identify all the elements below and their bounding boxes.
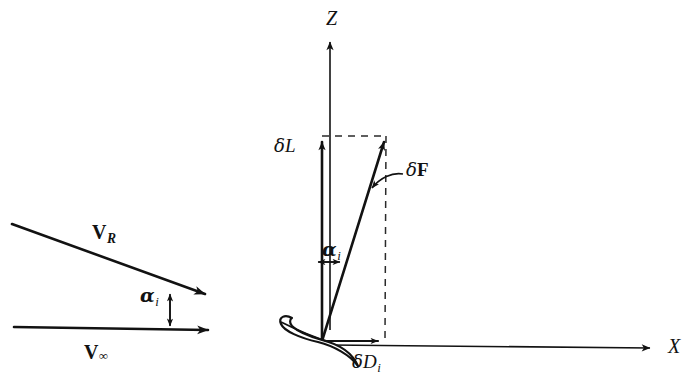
x-axis-label: X — [668, 336, 680, 356]
force-label-leader — [372, 174, 403, 188]
lift-increment-label: δL — [274, 136, 296, 155]
x-axis — [330, 345, 650, 348]
left-induced-angle-label: αi — [140, 286, 159, 309]
z-axis-label: Z — [326, 8, 337, 28]
figure-canvas — [0, 0, 698, 384]
freestream-velocity-vector — [14, 327, 208, 330]
freestream-velocity-label: V∞ — [84, 342, 108, 363]
induced-drag-label: δDi — [352, 352, 381, 375]
right-induced-angle-label: αi — [322, 240, 341, 263]
force-increment-label: δF — [406, 160, 429, 179]
dashed-right-line — [385, 136, 386, 338]
aerodynamics-figure: VR V∞ αi Z X δL δF δDi αi — [0, 0, 698, 384]
right-force-diagram — [280, 42, 650, 366]
resultant-velocity-label: VR — [92, 222, 116, 245]
